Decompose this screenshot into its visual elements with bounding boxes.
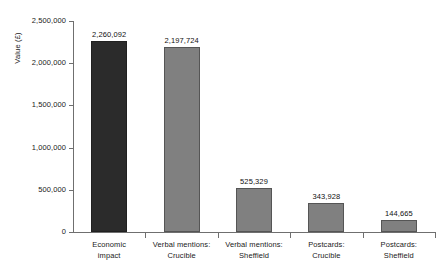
y-axis-tick-label: 0: [0, 227, 66, 236]
bar: [308, 203, 344, 232]
y-axis-tick: [69, 105, 74, 106]
bar-value-label: 2,197,724: [142, 36, 222, 45]
y-axis-tick-label: 1,000,000: [0, 143, 66, 152]
bar-chart: Value (£) 0500,0001,000,0001,500,0002,00…: [0, 0, 447, 279]
y-axis-tick-label: 2,500,000: [0, 16, 66, 25]
y-axis-tick-label: 2,000,000: [0, 58, 66, 67]
x-axis-tick: [363, 233, 364, 238]
x-axis-category-label: Postcards:Sheffield: [354, 240, 444, 261]
y-axis-tick-label: 1,500,000: [0, 100, 66, 109]
y-axis-tick: [69, 232, 74, 233]
bar: [381, 220, 417, 232]
y-axis-tick: [69, 63, 74, 64]
x-axis-category-label-line: Sheffield: [354, 251, 444, 262]
y-axis-tick: [69, 148, 74, 149]
x-axis-tick: [218, 233, 219, 238]
bar: [91, 41, 127, 232]
x-axis-line: [73, 232, 436, 233]
y-axis-tick: [69, 21, 74, 22]
bar: [236, 188, 272, 232]
x-axis-category-label-line: Postcards:: [354, 240, 444, 251]
x-axis-tick: [435, 233, 436, 238]
bar-value-label: 525,329: [214, 177, 294, 186]
bar-value-label: 144,665: [359, 209, 439, 218]
x-axis-tick: [290, 233, 291, 238]
bar-value-label: 2,260,092: [69, 30, 149, 39]
bar-value-label: 343,928: [286, 192, 366, 201]
bar: [164, 47, 200, 232]
y-axis-line: [73, 21, 74, 233]
y-axis-tick-label: 500,000: [0, 185, 66, 194]
y-axis-tick: [69, 190, 74, 191]
x-axis-tick: [145, 233, 146, 238]
